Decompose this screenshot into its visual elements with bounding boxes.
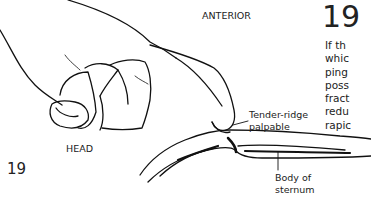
text-line: whic: [325, 52, 351, 65]
palpable-label: palpable: [249, 121, 290, 133]
figure-number: 19: [7, 160, 26, 178]
head-label: HEAD: [66, 143, 93, 155]
text-line: If th: [325, 39, 351, 52]
anterior-label: ANTERIOR: [202, 10, 251, 22]
body-of-sternum-label-line2: sternum: [275, 184, 315, 196]
text-line: redu: [325, 105, 351, 118]
sternum-palpation-illustration: [0, 0, 371, 206]
text-line: ping: [325, 66, 351, 79]
text-line: fract: [325, 92, 351, 105]
section-number: 19: [322, 2, 360, 32]
body-of-sternum-label-line1: Body of: [275, 172, 311, 184]
text-line: rapic: [325, 119, 351, 132]
body-text-column: If th whic ping poss fract redu rapic: [325, 39, 351, 132]
tender-ridge-label: Tender-ridge: [249, 109, 308, 121]
text-line: poss: [325, 79, 351, 92]
